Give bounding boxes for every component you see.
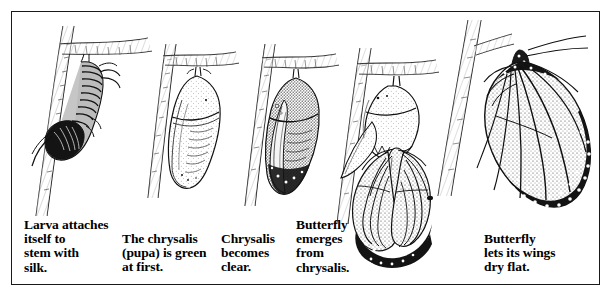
caption-panel-2: The chrysalis (pupa) is green at first. — [122, 232, 207, 275]
caption-panel-1: Larva attaches itself to stem with silk. — [24, 218, 108, 275]
caption-panel-4: Butterfly emerges from chrysalis. — [296, 218, 349, 275]
butterfly-life-cycle-figure: Larva attaches itself to stem with silk.… — [0, 0, 611, 302]
caption-panel-3: Chrysalis becomes clear. — [221, 232, 275, 275]
caption-panel-5: Butterfly lets its wings dry flat. — [484, 232, 555, 275]
